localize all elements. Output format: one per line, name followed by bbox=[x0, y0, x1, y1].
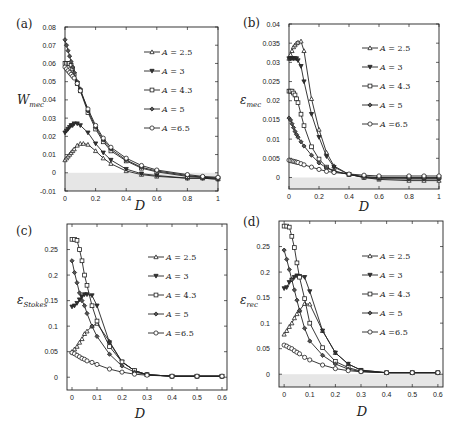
panel-label: (a) bbox=[16, 17, 33, 31]
square-marker bbox=[85, 283, 89, 287]
series-square bbox=[63, 62, 220, 181]
circle-marker bbox=[436, 371, 440, 375]
circle-marker bbox=[333, 367, 337, 371]
x-tick-label: 0.4 bbox=[382, 391, 392, 398]
series-square bbox=[282, 224, 440, 374]
x-tick-label: 0.4 bbox=[121, 195, 131, 202]
triangle-down-marker bbox=[109, 158, 113, 162]
square-marker bbox=[292, 246, 296, 250]
x-tick-label: 0.5 bbox=[192, 394, 202, 401]
diamond-marker bbox=[66, 49, 70, 53]
circle-marker bbox=[85, 359, 89, 363]
legend-label: A = 5 bbox=[379, 309, 403, 318]
legend-label: A = 4.3 bbox=[379, 290, 410, 299]
triangle-up-marker bbox=[80, 337, 84, 341]
circle-marker bbox=[75, 81, 79, 85]
legend: A = 2.5A = 3A = 4.3A = 5A =6.5 bbox=[362, 252, 410, 337]
square-legend-icon bbox=[150, 88, 154, 92]
legend: A = 2.5A = 3A = 4.3A = 5A =6.5 bbox=[144, 48, 192, 133]
panel-label: (b) bbox=[243, 16, 260, 30]
square-marker bbox=[308, 321, 312, 325]
circle-marker bbox=[170, 374, 174, 378]
square-marker bbox=[80, 259, 84, 263]
y-tick-label: 0.03 bbox=[42, 115, 56, 122]
circle-marker bbox=[109, 145, 113, 149]
legend: A = 2.5A = 3A = 4.3A = 5A =6.5 bbox=[148, 253, 196, 338]
y-tick-label: 0 bbox=[276, 174, 280, 181]
legend-label: A =6.5 bbox=[161, 124, 190, 133]
x-tick-label: 0.1 bbox=[305, 391, 315, 398]
panel-a-chart: 00.20.40.60.81-0.0100.010.020.030.040.05… bbox=[16, 17, 220, 213]
circle-marker bbox=[332, 170, 336, 174]
circle-marker bbox=[309, 165, 313, 169]
legend-label: A =6.5 bbox=[379, 120, 408, 129]
square-legend-icon bbox=[368, 292, 372, 296]
y-tick-label: 0.1 bbox=[260, 320, 270, 327]
y-tick-label: 0.25 bbox=[256, 243, 270, 250]
series-line bbox=[65, 63, 218, 178]
y-tick-label: 0 bbox=[266, 371, 270, 378]
circle-marker bbox=[107, 367, 111, 371]
square-marker bbox=[298, 275, 302, 279]
y-tick-label: 0.005 bbox=[262, 155, 280, 162]
circle-marker bbox=[185, 173, 189, 177]
x-tick-label: 0.8 bbox=[183, 195, 193, 202]
circle-marker bbox=[362, 173, 366, 177]
circle-marker bbox=[95, 362, 99, 366]
y-tick-label: 0.08 bbox=[42, 24, 56, 31]
x-tick-label: 0.2 bbox=[117, 394, 127, 401]
series-triangle-up bbox=[70, 322, 224, 378]
series-line bbox=[289, 41, 439, 180]
series-circle bbox=[287, 158, 441, 178]
triangle-up-marker bbox=[299, 39, 303, 43]
series-triangle-up bbox=[282, 302, 440, 375]
circle-marker bbox=[94, 123, 98, 127]
x-tick-label: 0.6 bbox=[433, 391, 443, 398]
x-tick-label: 0.2 bbox=[331, 391, 341, 398]
x-tick-label: 0.3 bbox=[142, 394, 152, 401]
circle-marker bbox=[132, 372, 136, 376]
y-tick-label: 0.1 bbox=[48, 323, 58, 330]
y-tick-label: 0.04 bbox=[266, 21, 280, 28]
panel-label: (d) bbox=[243, 215, 260, 229]
legend-label: A =6.5 bbox=[165, 329, 194, 338]
y-tick-label: 0.04 bbox=[42, 96, 56, 103]
circle-marker bbox=[377, 174, 381, 178]
x-tick-label: 0 bbox=[70, 394, 74, 401]
square-marker bbox=[299, 112, 303, 116]
diamond-legend-icon bbox=[150, 107, 154, 111]
triangle-down-legend-icon bbox=[150, 69, 154, 73]
legend-label: A = 3 bbox=[161, 67, 185, 76]
square-marker bbox=[302, 124, 306, 128]
series-circle bbox=[282, 343, 440, 375]
x-tick-label: 1 bbox=[437, 193, 441, 200]
square-marker bbox=[120, 360, 124, 364]
circle-marker bbox=[347, 172, 351, 176]
square-marker bbox=[83, 273, 87, 277]
y-tick-label: 0.035 bbox=[262, 40, 280, 47]
circle-marker bbox=[308, 358, 312, 362]
circle-marker bbox=[220, 374, 224, 378]
triangle-down-marker bbox=[296, 59, 300, 63]
circle-marker bbox=[303, 355, 307, 359]
x-tick-label: 0.4 bbox=[344, 193, 354, 200]
square-marker bbox=[293, 93, 297, 97]
diamond-marker bbox=[282, 248, 286, 252]
legend-label: A = 4.3 bbox=[161, 86, 192, 95]
x-tick-label: 0.6 bbox=[152, 195, 162, 202]
y-tick-label: 0.02 bbox=[42, 133, 56, 140]
axes-frame bbox=[289, 24, 439, 189]
circle-legend-icon bbox=[154, 331, 158, 335]
circle-marker bbox=[359, 370, 363, 374]
triangle-down-marker bbox=[332, 165, 336, 169]
circle-marker bbox=[317, 167, 321, 171]
y-tick-label: 0.02 bbox=[266, 97, 280, 104]
legend-label: A = 2.5 bbox=[379, 44, 410, 53]
square-marker bbox=[75, 238, 79, 242]
y-tick-label: 0.05 bbox=[256, 345, 270, 352]
circle-marker bbox=[124, 156, 128, 160]
square-legend-icon bbox=[368, 84, 372, 88]
triangle-down-legend-icon bbox=[368, 273, 372, 277]
diamond-marker bbox=[77, 291, 81, 295]
square-marker bbox=[78, 248, 82, 252]
